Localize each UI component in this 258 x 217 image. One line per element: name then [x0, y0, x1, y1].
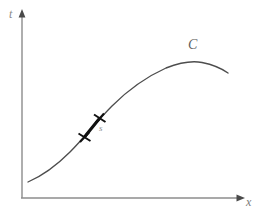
figure-canvas: t x C s: [0, 0, 258, 217]
arrow-right-icon: [237, 195, 246, 202]
y-axis-label: t: [9, 8, 12, 20]
curve-c-path: [28, 62, 228, 182]
arc-length-label: s: [99, 124, 103, 133]
x-axis-label: x: [246, 196, 251, 208]
arrow-up-icon: [19, 9, 26, 18]
x-cross-tick-icon-start: [79, 133, 91, 143]
curve-label: C: [188, 38, 197, 52]
x-cross-tick-icon-end: [94, 114, 106, 124]
figure-graphic: [0, 0, 258, 217]
caption-strip: [0, 209, 258, 217]
